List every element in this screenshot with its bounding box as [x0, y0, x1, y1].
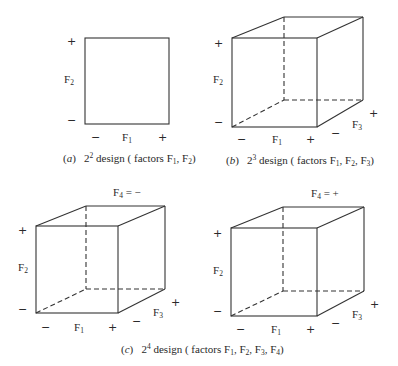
- f2-high-label-c-left: +: [18, 225, 27, 236]
- f3-low-label-c-right: −: [331, 318, 340, 329]
- f3-sub: 3: [358, 123, 362, 132]
- f3-sub: 3: [159, 311, 163, 320]
- f2-high-label-a: +: [67, 36, 76, 47]
- caption-factor-sub: 3: [261, 348, 265, 357]
- cube-f4-low: [36, 206, 165, 313]
- caption-text: design ( factors F: [256, 154, 335, 166]
- f1-high-label-c-right: +: [306, 324, 315, 335]
- f3-axis-label-c-right: F3: [352, 309, 362, 323]
- caption-factor-sub: 2: [351, 159, 355, 168]
- f1-high-label-b: +: [306, 134, 315, 145]
- f3-high-label-c-right: +: [370, 299, 379, 310]
- caption-factor-sub: 4: [276, 348, 280, 357]
- f1-high-label-c-left: +: [108, 322, 117, 333]
- caption-factor-sub: 1: [230, 348, 234, 357]
- f2-high-label-c-right: +: [213, 228, 222, 239]
- f2-low-label-c-left: −: [18, 304, 27, 315]
- f2-high-label-b: +: [214, 38, 223, 49]
- f3-axis-label-c-left: F3: [153, 307, 163, 321]
- f2-axis-label-c-right: F2: [213, 265, 223, 279]
- f3-low-label-c-left: −: [132, 316, 141, 327]
- f1-low-label-c-right: −: [236, 324, 245, 335]
- f1-axis-label-b: F1: [272, 134, 282, 148]
- design-diagram-canvas: [0, 0, 398, 366]
- f3-high-label-c-left: +: [171, 297, 180, 308]
- f2-sub: 2: [219, 269, 223, 278]
- caption-factor-sub: 2: [246, 348, 250, 357]
- cube-2-3-design: [232, 17, 363, 127]
- f2-axis-label-c-left: F2: [18, 262, 28, 276]
- f3-axis-label-b: F3: [352, 119, 362, 133]
- f2-sub: 2: [219, 78, 223, 87]
- f2-sub: 2: [24, 266, 28, 275]
- caption-factor-sub: 2: [188, 157, 192, 166]
- square-2-2-design: [85, 38, 169, 124]
- f2-sub: 2: [70, 78, 74, 87]
- f4-value: = −: [123, 186, 141, 198]
- caption-letter: a: [67, 152, 73, 164]
- f2-axis-label-b: F2: [213, 74, 223, 88]
- f4-value: = +: [321, 187, 339, 199]
- caption-c: (c) 24 design ( factors F1, F2, F3, F4): [121, 341, 284, 359]
- f2-low-label-a: −: [67, 115, 76, 126]
- f1-low-label-a: −: [91, 132, 100, 143]
- f4-level-title-left: F4 = −: [113, 187, 141, 201]
- caption-factor-sub: 1: [173, 157, 177, 166]
- caption-a: (a) 22 design ( factors F1, F2): [63, 150, 196, 168]
- f2-low-label-c-right: −: [213, 306, 222, 317]
- f1-sub: 1: [128, 136, 132, 145]
- f1-sub: 1: [80, 326, 84, 335]
- f3-sub: 3: [358, 313, 362, 322]
- f3-low-label-b: −: [331, 128, 340, 139]
- f1-low-label-b: −: [237, 134, 246, 145]
- f2-axis-label-a: F2: [64, 74, 74, 88]
- f1-sub: 1: [277, 328, 281, 337]
- f1-sub: 1: [278, 138, 282, 147]
- caption-letter: b: [230, 154, 236, 166]
- f1-axis-label-c-left: F1: [74, 322, 84, 336]
- f4-level-title-right: F4 = +: [311, 188, 339, 202]
- caption-factor-sub: 1: [336, 159, 340, 168]
- f2-low-label-b: −: [214, 117, 223, 128]
- caption-factor-sub: 3: [367, 159, 371, 168]
- caption-b: (b) 23 design ( factors F1, F2, F3): [226, 152, 374, 170]
- f1-high-label-a: +: [158, 132, 167, 143]
- caption-text: design ( factors F: [151, 343, 230, 355]
- f1-axis-label-a: F1: [122, 132, 132, 146]
- caption-text: design ( factors F: [93, 152, 172, 164]
- f3-high-label-b: +: [369, 108, 378, 119]
- caption-letter: c: [125, 343, 130, 355]
- cube-f4-high: [231, 207, 364, 316]
- f1-axis-label-c-right: F1: [271, 324, 281, 338]
- f1-low-label-c-left: −: [41, 322, 50, 333]
